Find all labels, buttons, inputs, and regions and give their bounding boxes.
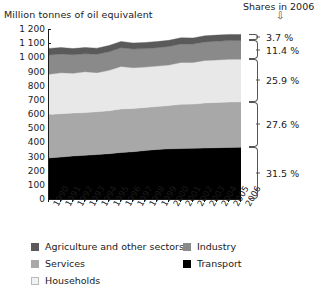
legend-item[interactable]: Agriculture and other sectors — [31, 241, 184, 252]
legend-swatch-icon — [183, 243, 191, 251]
x-tick-mark — [84, 199, 85, 202]
y-axis-tick-labels: 01002003004005006007008009001 0001 1001 … — [0, 29, 45, 199]
y-tick-label: 900 — [28, 67, 45, 77]
x-tick-mark — [72, 199, 73, 202]
legend-item[interactable]: Transport — [183, 258, 242, 269]
legend-label: Industry — [197, 241, 236, 252]
y-tick-label: 400 — [28, 137, 45, 147]
legend-item[interactable]: Industry — [183, 241, 236, 252]
x-tick-mark — [48, 199, 49, 202]
stacked-area-series — [49, 29, 241, 199]
x-tick-mark — [144, 199, 145, 202]
share-brace-tip — [256, 173, 260, 174]
chart-root: Million tonnes of oil equivalent Shares … — [0, 0, 328, 298]
x-tick-mark — [60, 199, 61, 202]
y-tick-label: 800 — [28, 81, 45, 91]
legend-swatch-icon — [31, 243, 39, 251]
y-tick-label: 100 — [28, 180, 45, 190]
x-tick-mark — [204, 199, 205, 202]
y-tick-label: 600 — [28, 109, 45, 119]
legend-item[interactable]: Services — [31, 258, 85, 269]
share-value-households: 25.9 % — [266, 75, 299, 86]
legend-label: Agriculture and other sectors — [45, 241, 184, 252]
y-tick-label: 300 — [28, 152, 45, 162]
legend-item[interactable]: Households — [31, 275, 100, 286]
share-brace-tip — [256, 37, 260, 38]
x-tick-mark — [192, 199, 193, 202]
x-tick-mark — [228, 199, 229, 202]
y-tick-label: 200 — [28, 166, 45, 176]
share-brace-tip — [256, 49, 260, 50]
legend-swatch-icon — [31, 260, 39, 268]
x-tick-mark — [132, 199, 133, 202]
y-tick-label: 1 200 — [19, 24, 45, 34]
x-tick-mark — [96, 199, 97, 202]
share-value-agriculture-and-other-sectors: 3.7 % — [266, 32, 293, 43]
share-brace-tip — [256, 124, 260, 125]
y-tick-label: 1 000 — [19, 52, 45, 62]
x-tick-mark — [120, 199, 121, 202]
x-tick-mark — [108, 199, 109, 202]
legend-swatch-icon — [183, 260, 191, 268]
x-tick-mark — [216, 199, 217, 202]
legend-label: Households — [45, 275, 100, 286]
legend-label: Transport — [197, 258, 242, 269]
share-brace-tip — [256, 80, 260, 81]
y-tick-label: 700 — [28, 95, 45, 105]
y-tick-label: 1 100 — [19, 38, 45, 48]
y-tick-label: 0 — [39, 194, 45, 204]
share-value-transport: 31.5 % — [266, 168, 299, 179]
x-tick-mark — [240, 199, 241, 202]
chart-legend: Agriculture and other sectorsIndustrySer… — [31, 241, 321, 293]
x-tick-mark — [168, 199, 169, 202]
share-value-services: 27.6 % — [266, 119, 299, 130]
plot-area — [48, 29, 241, 199]
legend-label: Services — [45, 258, 85, 269]
x-tick-mark — [180, 199, 181, 202]
legend-swatch-icon — [31, 277, 39, 285]
y-tick-label: 500 — [28, 123, 45, 133]
share-value-industry: 11.4 % — [266, 44, 299, 55]
x-tick-mark — [156, 199, 157, 202]
arrow-down-icon: ⇩ — [276, 11, 284, 21]
y-axis-title: Million tonnes of oil equivalent — [4, 9, 153, 20]
